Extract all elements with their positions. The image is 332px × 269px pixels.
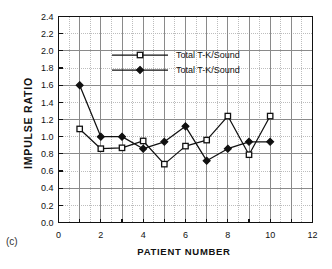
x-tick-label: 0 xyxy=(56,230,61,240)
y-tick-label: 1.2 xyxy=(41,115,54,125)
y-tick-label: 0.4 xyxy=(41,183,54,193)
y-tick-label: 0.2 xyxy=(41,201,54,211)
x-tick-label: 10 xyxy=(265,230,275,240)
legend-label: Total T-K/Sound xyxy=(176,65,240,75)
x-tick-label: 8 xyxy=(225,230,230,240)
y-tick-label: 0.8 xyxy=(41,149,54,159)
y-tick-label: 1.4 xyxy=(41,98,54,108)
y-tick-label: 0.0 xyxy=(41,218,54,228)
x-tick-labels: 024681012 xyxy=(56,230,318,240)
legend-entry: Total T-K/Sound xyxy=(112,50,240,60)
y-tick-label: 2.2 xyxy=(41,29,54,39)
chart-legend: Total T-K/SoundTotal T-K/Sound xyxy=(112,50,240,75)
legend-label: Total T-K/Sound xyxy=(176,50,240,60)
x-tick-label: 2 xyxy=(98,230,103,240)
y-tick-label: 1.8 xyxy=(41,63,54,73)
x-tick-label: 12 xyxy=(307,230,317,240)
chart-plot: 0.00.20.40.60.81.01.21.41.61.82.02.22.4 … xyxy=(0,0,332,269)
y-tick-label: 1.6 xyxy=(41,80,54,90)
y-tick-label: 1.0 xyxy=(41,132,54,142)
y-tick-label: 0.6 xyxy=(41,166,54,176)
x-tick-label: 6 xyxy=(183,230,188,240)
major-gridlines xyxy=(59,17,313,223)
y-tick-label: 2.0 xyxy=(41,46,54,56)
x-tick-label: 4 xyxy=(141,230,146,240)
figure-panel: IMPULSE RATIO PATIENT NUMBER (c) 0.00.20… xyxy=(0,0,332,269)
legend-entry: Total T-K/Sound xyxy=(112,65,240,75)
y-tick-labels: 0.00.20.40.60.81.01.21.41.61.82.02.22.4 xyxy=(41,12,54,228)
y-tick-label: 2.4 xyxy=(41,12,54,22)
